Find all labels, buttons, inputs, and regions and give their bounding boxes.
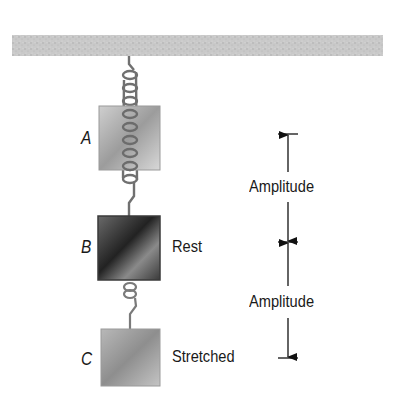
block-c bbox=[101, 329, 160, 386]
label-rest: Rest bbox=[172, 237, 202, 257]
amplitude-dimension bbox=[278, 134, 298, 358]
block-a bbox=[99, 106, 160, 170]
label-a: A bbox=[81, 128, 91, 149]
spring-diagram bbox=[0, 0, 397, 404]
label-c: C bbox=[81, 349, 92, 370]
label-amplitude-upper: Amplitude bbox=[249, 177, 314, 197]
block-b bbox=[98, 216, 160, 280]
label-b: B bbox=[81, 237, 91, 258]
label-stretched: Stretched bbox=[172, 347, 235, 367]
spring-lower bbox=[124, 283, 136, 329]
label-amplitude-lower: Amplitude bbox=[249, 292, 314, 312]
ceiling-bar bbox=[12, 35, 383, 56]
